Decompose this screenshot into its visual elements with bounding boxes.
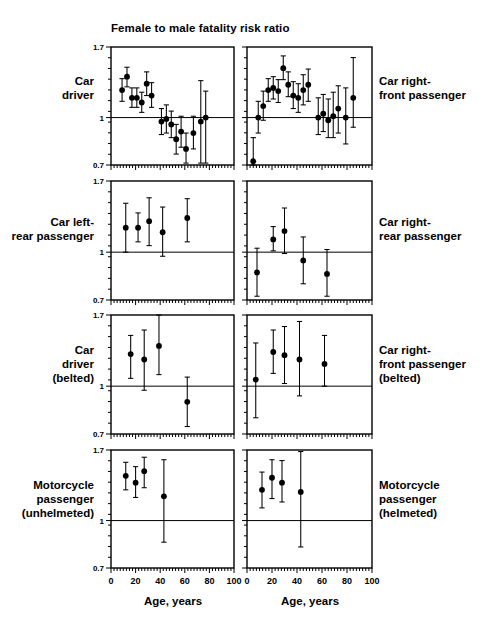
figure-panel-grid: Female to male fatality risk ratio Cardr… (0, 0, 487, 627)
data-point (259, 472, 265, 508)
data-point (191, 116, 197, 149)
data-point (141, 330, 147, 390)
data-point (330, 92, 336, 137)
point-marker (254, 269, 260, 275)
point-marker (282, 228, 288, 234)
data-point (203, 91, 209, 163)
y-tick-label: 1 (100, 517, 105, 526)
point-marker (134, 95, 140, 101)
data-point (139, 92, 145, 112)
panel-2-1: 0.711.7 (93, 177, 234, 305)
panel-frame (111, 47, 234, 165)
point-marker (260, 103, 266, 109)
panel-2-2 (242, 181, 372, 305)
point-marker (300, 258, 306, 264)
point-marker (124, 74, 130, 80)
point-marker (173, 136, 179, 142)
data-point (119, 79, 125, 102)
point-marker (270, 349, 276, 355)
point-marker (269, 475, 275, 481)
point-marker (280, 65, 286, 71)
data-point (350, 58, 356, 128)
point-marker (324, 271, 330, 277)
point-marker (198, 119, 204, 125)
data-point (270, 330, 276, 373)
data-point (275, 80, 281, 103)
data-point (135, 213, 141, 242)
point-marker (265, 87, 271, 93)
panel-frame (247, 450, 372, 568)
point-marker (141, 468, 147, 474)
y-tick-label: 1.7 (93, 311, 105, 320)
data-point (279, 461, 285, 502)
point-marker (184, 399, 190, 405)
panel-frame (247, 181, 372, 300)
y-tick-label: 1 (100, 382, 105, 391)
data-point (144, 72, 150, 96)
data-point (322, 335, 328, 386)
data-point (270, 227, 276, 251)
point-marker (282, 352, 288, 358)
data-point (178, 116, 184, 147)
point-marker (156, 343, 162, 349)
data-point (156, 315, 162, 375)
point-marker (159, 119, 165, 125)
point-marker (300, 87, 306, 93)
point-marker (184, 215, 190, 221)
x-tick-label: 0 (108, 576, 113, 586)
point-marker (290, 93, 296, 99)
data-point (324, 250, 330, 297)
point-marker (161, 493, 167, 499)
data-point (198, 81, 204, 163)
data-point (184, 199, 190, 242)
point-marker (123, 225, 129, 231)
data-point (163, 105, 169, 133)
data-point (149, 83, 155, 108)
y-tick-label: 1.7 (93, 177, 105, 186)
point-marker (160, 229, 166, 235)
x-tick-label: 20 (131, 576, 141, 586)
x-tick-label: 60 (317, 576, 327, 586)
point-marker (163, 116, 169, 122)
data-point (290, 82, 296, 109)
data-point (168, 111, 174, 138)
data-point (253, 343, 259, 418)
data-point (295, 84, 301, 113)
point-marker (343, 115, 349, 121)
point-marker (320, 111, 326, 117)
point-marker (285, 82, 291, 88)
data-point (141, 457, 147, 488)
data-point (285, 72, 291, 97)
x-tick-label: 100 (364, 576, 379, 586)
panel-3-2 (242, 315, 372, 439)
point-marker (144, 81, 150, 87)
panel-4-1: 0.711.7020406080100 (93, 446, 242, 586)
data-point (297, 321, 303, 395)
data-point (300, 237, 306, 284)
data-point (280, 56, 286, 80)
x-tick-label: 80 (342, 576, 352, 586)
point-marker (350, 95, 356, 101)
x-tick-label: 40 (155, 576, 165, 586)
point-marker (305, 82, 311, 88)
point-marker (119, 87, 125, 93)
panel-frame (247, 315, 372, 434)
data-point (320, 94, 326, 131)
x-tick-label: 80 (204, 576, 214, 586)
plot-area: 0.711.70.711.70.711.70.711.7020406080100… (0, 0, 487, 627)
point-marker (335, 106, 341, 112)
point-marker (146, 218, 152, 224)
point-marker (322, 361, 328, 367)
point-marker (295, 95, 301, 101)
data-point (128, 335, 134, 378)
data-point (123, 203, 129, 252)
panel-1-2 (242, 47, 372, 170)
panel-frame (111, 450, 234, 568)
data-point (300, 75, 306, 105)
data-point (298, 452, 304, 547)
point-marker (298, 489, 304, 495)
point-marker (135, 225, 141, 231)
point-marker (139, 100, 145, 106)
point-marker (168, 121, 174, 127)
data-point (265, 79, 271, 102)
